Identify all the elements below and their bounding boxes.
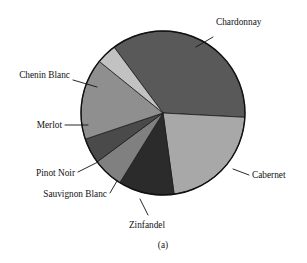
slice-label-pinot-noir: Pinot Noir [36,168,76,178]
pie-slice-cabernet [163,113,245,194]
slice-label-chenin-blanc: Chenin Blanc [19,70,70,80]
pie-chart-figure: Chardonnay Cabernet Zinfandel Sauvignon … [0,0,307,263]
slice-label-cabernet: Cabernet [252,170,286,180]
slice-label-zinfandel: Zinfandel [129,220,166,230]
slice-label-merlot: Merlot [37,120,63,130]
pie-chart-canvas: Chardonnay Cabernet Zinfandel Sauvignon … [0,0,307,263]
slice-label-sauvignon-blanc: Sauvignon Blanc [43,189,107,199]
figure-caption: (a) [158,240,168,251]
leader-line-zinfandel [140,199,148,215]
pie-slices-group [81,31,245,195]
leader-line-cabernet [233,169,249,175]
slice-label-chardonnay: Chardonnay [216,17,262,27]
leader-line-pinot-noir [78,162,98,172]
leader-line-sauvignon-blanc [110,181,117,193]
